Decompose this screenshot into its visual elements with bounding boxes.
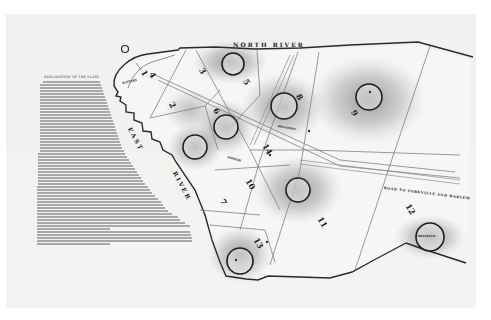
site-circle-ward-6: [214, 115, 238, 139]
city-map: [0, 0, 491, 320]
bellevue-label: BELLEVUE: [418, 234, 435, 238]
site-circle-ward-11: [286, 178, 310, 202]
site-circle-ward-4: [183, 135, 207, 159]
site-circle-ward-13: [227, 248, 253, 274]
site-circle-ward-3: [222, 53, 244, 75]
fort-marker: [122, 46, 129, 53]
north-river-label: NORTH RIVER: [233, 41, 305, 48]
site-circle-ward-9: [356, 84, 382, 110]
